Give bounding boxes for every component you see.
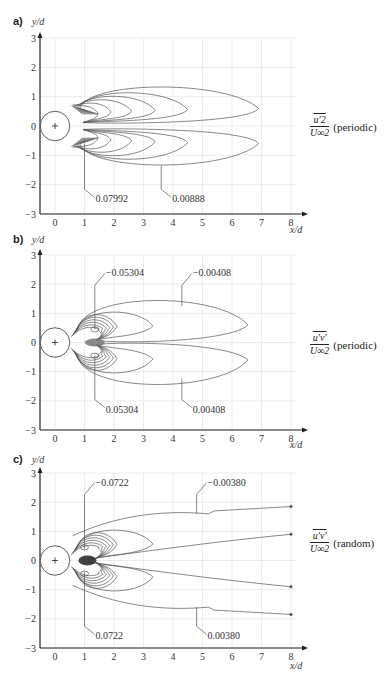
svg-text:2: 2 [112, 433, 117, 444]
svg-text:−1: −1 [25, 150, 36, 161]
svg-text:1: 1 [31, 91, 36, 102]
svg-text:0: 0 [31, 121, 36, 132]
svg-text:4: 4 [171, 217, 176, 228]
svg-text:1: 1 [82, 433, 87, 444]
svg-text:3: 3 [31, 468, 36, 479]
svg-text:4: 4 [171, 651, 176, 662]
svg-text:0: 0 [31, 337, 36, 348]
svg-text:−2: −2 [25, 395, 36, 406]
svg-text:1: 1 [31, 526, 36, 537]
contour-plots: 012345678−3−2−101230.079920.008880123456… [0, 0, 390, 688]
svg-text:5: 5 [200, 217, 205, 228]
contour-label: 0.05304 [106, 404, 139, 415]
contour-label: 0.0722 [96, 630, 124, 641]
contour-label: −0.00408 [193, 267, 231, 278]
plot-0: 012345678−3−2−101230.079920.00888 [25, 32, 308, 228]
svg-text:5: 5 [200, 433, 205, 444]
svg-text:8: 8 [289, 433, 294, 444]
svg-text:0: 0 [53, 651, 58, 662]
svg-text:7: 7 [259, 651, 264, 662]
svg-text:2: 2 [112, 651, 117, 662]
contour-label: −0.05304 [106, 267, 144, 278]
contour-labels: 0.079920.00888 [85, 144, 205, 205]
svg-text:2: 2 [31, 497, 36, 508]
svg-text:3: 3 [141, 433, 146, 444]
plot-1: 012345678−3−2−10123−0.05304−0.004080.053… [25, 249, 308, 444]
svg-text:6: 6 [230, 433, 235, 444]
contour-label: 0.07992 [96, 193, 129, 204]
svg-text:−2: −2 [25, 179, 36, 190]
contour-label: 0.00380 [208, 630, 241, 641]
contour-label: 0.00408 [193, 404, 226, 415]
svg-text:2: 2 [112, 217, 117, 228]
svg-text:2: 2 [31, 62, 36, 73]
svg-text:3: 3 [141, 651, 146, 662]
svg-text:1: 1 [31, 308, 36, 319]
svg-text:−1: −1 [25, 584, 36, 595]
svg-text:8: 8 [289, 217, 294, 228]
svg-text:3: 3 [31, 250, 36, 261]
svg-text:5: 5 [200, 651, 205, 662]
svg-text:−2: −2 [25, 613, 36, 624]
svg-text:6: 6 [230, 217, 235, 228]
svg-text:1: 1 [82, 651, 87, 662]
svg-text:8: 8 [289, 651, 294, 662]
svg-text:7: 7 [259, 217, 264, 228]
contour-label: −0.0722 [96, 477, 129, 488]
svg-text:1: 1 [82, 217, 87, 228]
svg-text:2: 2 [31, 279, 36, 290]
svg-text:−3: −3 [25, 425, 36, 436]
svg-text:0: 0 [53, 433, 58, 444]
plot-2: 012345678−3−2−10123−0.0722−0.003800.0722… [25, 467, 308, 662]
svg-text:4: 4 [171, 433, 176, 444]
svg-text:−1: −1 [25, 366, 36, 377]
svg-text:0: 0 [53, 217, 58, 228]
svg-text:3: 3 [141, 217, 146, 228]
contour-labels: −0.0722−0.003800.07220.00380 [85, 477, 246, 642]
svg-text:7: 7 [259, 433, 264, 444]
svg-text:6: 6 [230, 651, 235, 662]
svg-text:−3: −3 [25, 643, 36, 654]
svg-text:3: 3 [31, 33, 36, 44]
contour-label: 0.00888 [172, 193, 205, 204]
svg-text:−3: −3 [25, 209, 36, 220]
contour-label: −0.00380 [208, 477, 246, 488]
svg-text:0: 0 [31, 555, 36, 566]
